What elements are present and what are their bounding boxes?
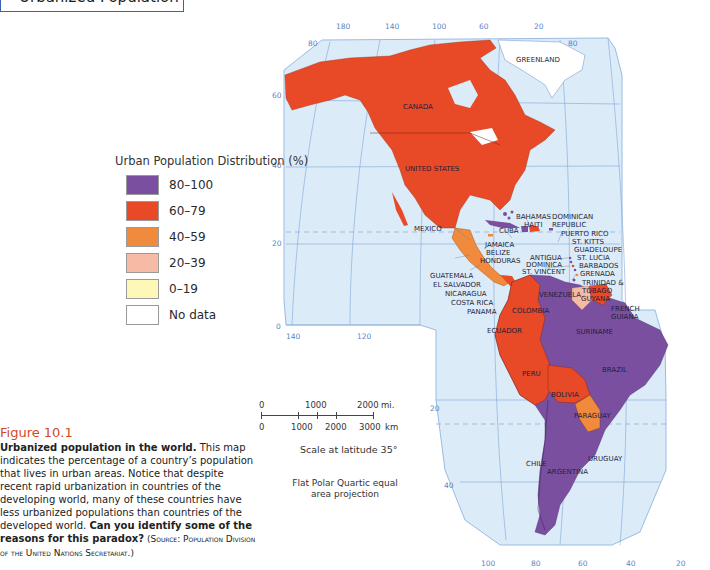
legend-label: 80–100 xyxy=(169,178,213,192)
label-panama: PANAMA xyxy=(467,308,497,316)
lon-label: 120 xyxy=(357,332,372,341)
projection-note: Flat Polar Quartic equal area projection xyxy=(290,478,400,500)
label-dominican-republic: DOMINICAN xyxy=(552,213,593,221)
label-suriname: SURINAME xyxy=(576,328,613,336)
legend-item: 20–39 xyxy=(126,252,206,274)
legend-swatch xyxy=(126,201,159,221)
legend-label: No data xyxy=(169,308,216,322)
label-brazil: BRAZIL xyxy=(602,366,627,374)
legend-swatch xyxy=(126,305,159,325)
label-mexico: MEXICO xyxy=(414,225,442,233)
lon-label: 100 xyxy=(481,559,496,568)
lat-label: 80 xyxy=(568,39,578,48)
lon-label: 60 xyxy=(479,22,489,31)
label-guyana: GUYANA xyxy=(581,295,610,303)
label-united-states: UNITED STATES xyxy=(405,165,460,173)
scale-mile-tick: 1000 xyxy=(305,400,327,410)
label-guatemala: GUATEMALA xyxy=(430,272,473,280)
scale-km-tick: 2000 xyxy=(325,422,347,432)
label-barbados: BARBADOS xyxy=(579,262,619,270)
label-french-guiana: FRENCH xyxy=(611,305,640,313)
scale-km-tick: 0 xyxy=(259,422,264,432)
label-st-kitts: ST. KITTS xyxy=(572,238,604,246)
label-venezuela: VENEZUELA xyxy=(539,291,581,299)
label-ecuador: ECUADOR xyxy=(487,327,522,335)
legend-item: 80–100 xyxy=(126,174,213,196)
label-bahamas: BAHAMAS xyxy=(516,213,551,221)
legend-item: 40–59 xyxy=(126,226,206,248)
lon-label: 20 xyxy=(676,559,686,568)
legend-label: 40–59 xyxy=(169,230,206,244)
label-trinidad-tobago: TRINIDAD & xyxy=(581,279,624,287)
label-st-vincent: ST. VINCENT xyxy=(522,268,566,276)
label-st-lucia: ST. LUCIA xyxy=(577,254,610,262)
legend-item: No data xyxy=(126,304,216,326)
figure-number: Figure 10.1 xyxy=(0,425,256,440)
label-guadeloupe: GUADELOUPE xyxy=(574,246,622,254)
lon-label: 80 xyxy=(531,559,541,568)
lat-label: 0 xyxy=(276,322,281,331)
lon-label: 100 xyxy=(432,22,447,31)
lat-label: 20 xyxy=(272,239,282,248)
legend-swatch xyxy=(126,175,159,195)
map-title: Urbanized Population xyxy=(0,0,184,12)
figure-caption: Figure 10.1 Urbanized population in the … xyxy=(0,425,256,560)
label-puerto-rico: PUERTO RICO xyxy=(561,230,609,238)
legend-swatch xyxy=(126,227,159,247)
label-nicaragua: NICARAGUA xyxy=(445,290,487,298)
lon-label: 180 xyxy=(336,22,351,31)
scale-mile-unit: mi. xyxy=(381,400,394,410)
label-dominican-republic: REPUBLIC xyxy=(552,221,586,229)
lon-label: 20 xyxy=(534,22,544,31)
label-peru: PERU xyxy=(522,370,541,378)
label-paraguay: PARAGUAY xyxy=(574,412,612,420)
label-bolivia: BOLIVIA xyxy=(551,391,579,399)
label-chile: CHILE xyxy=(526,460,547,468)
lon-label: 140 xyxy=(286,332,301,341)
scale-note: Scale at latitude 35° xyxy=(300,444,397,455)
caption-lead: Urbanized population in the world. xyxy=(0,442,197,453)
lon-label: 140 xyxy=(385,22,400,31)
lon-label: 40 xyxy=(626,559,636,568)
label-argentina: ARGENTINA xyxy=(547,468,588,476)
scale-km-tick: 3000 xyxy=(359,422,381,432)
label-canada: CANADA xyxy=(403,103,433,111)
label-greenland: GREENLAND xyxy=(516,56,560,64)
scale-mile-tick: 2000 xyxy=(357,400,379,410)
legend-swatch xyxy=(126,253,159,273)
legend-item: 0–19 xyxy=(126,278,198,300)
legend-label: 20–39 xyxy=(169,256,206,270)
label-belize: BELIZE xyxy=(486,249,510,257)
label-colombia: COLOMBIA xyxy=(512,307,549,315)
lon-label: 60 xyxy=(578,559,588,568)
caption-body: This map indicates the percentage of a c… xyxy=(0,442,253,531)
legend-label: 0–19 xyxy=(169,282,198,296)
legend-swatch xyxy=(126,279,159,299)
scale-km-tick: 1000 xyxy=(291,422,313,432)
lat-label: 60 xyxy=(272,91,282,100)
legend-title: Urban Population Distribution (%) xyxy=(115,154,308,168)
label-grenada: GRENADA xyxy=(580,270,615,278)
label-french-guiana: GUIANA xyxy=(611,313,639,321)
label-costa-rica: COSTA RICA xyxy=(451,299,493,307)
legend-label: 60–79 xyxy=(169,204,206,218)
label-trinidad-tobago: TOBAGO xyxy=(581,287,613,295)
label-haiti: HAITI xyxy=(524,221,542,229)
label-uruguay: URUGUAY xyxy=(588,455,623,463)
label-jamaica: JAMAICA xyxy=(484,241,515,249)
lat-label: 40 xyxy=(444,481,454,490)
label-el-salvador: EL SALVADOR xyxy=(433,281,481,289)
scale-mile-tick: 0 xyxy=(259,400,264,410)
scale-km-unit: km xyxy=(385,422,398,432)
label-honduras: HONDURAS xyxy=(480,257,521,265)
lat-label: 80 xyxy=(308,39,318,48)
label-cuba: CUBA xyxy=(499,227,519,235)
legend-item: 60–79 xyxy=(126,200,206,222)
